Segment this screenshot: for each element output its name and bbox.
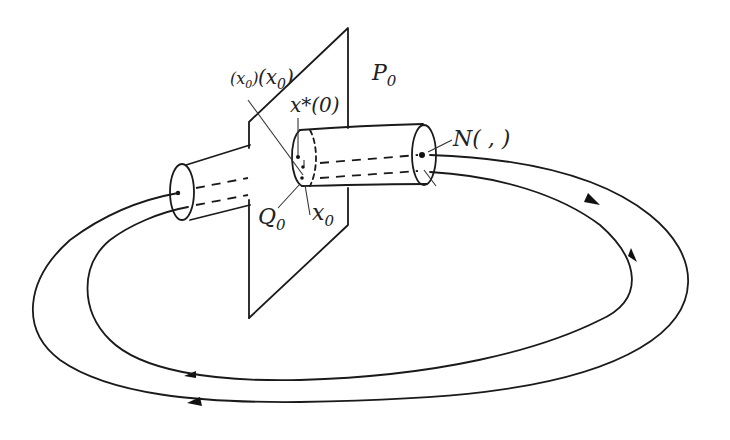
flow-label-b: (x0) xyxy=(258,65,294,92)
periodic-point-label: x*(0) xyxy=(290,93,340,117)
section-label: Q0 xyxy=(258,204,286,234)
flow-label-a: (x0) xyxy=(230,69,259,91)
arrow-icon xyxy=(584,193,600,205)
poincare-map-diagram: P0 (x0) (x0) x*(0) Q0 x0 N( , ) xyxy=(0,0,730,440)
arrow-icon xyxy=(628,248,637,262)
outer-orbit xyxy=(33,155,688,402)
right-tube xyxy=(292,124,436,186)
inner-orbit xyxy=(88,172,638,406)
plane-label: P0 xyxy=(371,60,397,90)
initial-point-label: x0 xyxy=(312,200,334,230)
neighborhood-label: N( , ) xyxy=(452,126,510,151)
